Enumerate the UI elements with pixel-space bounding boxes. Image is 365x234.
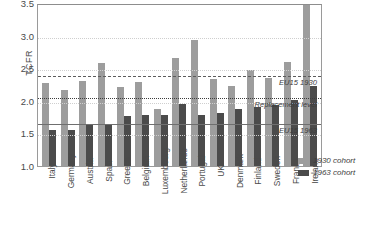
x-tick: Luxembourg: [151, 169, 170, 233]
bar-group: [170, 5, 189, 166]
x-tick-label: Sweden: [273, 156, 281, 186]
bar-group: [133, 5, 152, 166]
y-tick-label: 2.5: [8, 64, 34, 74]
bar-group: [96, 5, 115, 166]
x-tick: France: [283, 169, 302, 233]
reference-line-label: EU15 1963: [279, 127, 317, 135]
y-tick-label: 1.5: [8, 129, 34, 139]
y-tick-label: 3.5: [8, 0, 34, 9]
bar-group: [226, 5, 245, 166]
x-tick: Greece: [114, 169, 133, 233]
x-tick: Austria: [76, 169, 95, 233]
x-tick-label: Netherlands: [180, 148, 188, 193]
x-tick-label: Austria: [86, 158, 94, 184]
bar: [98, 63, 105, 166]
x-tick: Denmark: [226, 169, 245, 233]
bar-group: [77, 5, 96, 166]
x-tick: Sweden: [264, 169, 283, 233]
x-tick: Germany: [58, 169, 77, 233]
y-axis-ticks: 1.01.52.02.53.03.5: [4, 0, 34, 234]
bar: [210, 79, 217, 166]
x-tick-label: Germany: [67, 154, 75, 188]
x-tick: Italy: [39, 169, 58, 233]
x-tick-label: Finland: [254, 157, 262, 184]
legend-item: 1963 cohort: [298, 168, 355, 177]
bar-group: [40, 5, 59, 166]
x-tick: UK: [208, 169, 227, 233]
x-tick-label: Spain: [105, 160, 113, 181]
x-tick-label: UK: [217, 165, 225, 177]
bar: [247, 70, 254, 166]
bar-group: [152, 5, 171, 166]
reference-line-label: EU15 1930: [279, 79, 317, 87]
y-tick-label: 2.0: [8, 97, 34, 107]
y-tick-label: 1.0: [8, 162, 34, 172]
x-tick: Belgium: [133, 169, 152, 233]
reference-line: [38, 76, 321, 77]
legend-label: 1963 cohort: [313, 168, 355, 177]
bar-group: [114, 5, 133, 166]
bar-group: [245, 5, 264, 166]
reference-line: [38, 124, 321, 125]
x-tick-label: Italy: [48, 163, 56, 178]
bar: [217, 113, 224, 166]
plot-area: EU15 1930Replacement levelEU15 1963: [37, 4, 322, 167]
x-axis-labels: ItalyGermanyAustriaSpainGreeceBelgiumLux…: [37, 169, 322, 233]
chart-legend: 1930 cohort1963 cohort: [298, 156, 355, 177]
gridline: [38, 70, 321, 71]
bar: [265, 78, 272, 166]
legend-item: 1930 cohort: [298, 156, 355, 165]
x-tick: Finland: [245, 169, 264, 233]
x-tick-label: Portugal: [198, 155, 206, 186]
legend-swatch: [298, 158, 309, 164]
legend-label: 1930 cohort: [313, 156, 355, 165]
x-tick-label: Denmark: [236, 154, 244, 188]
x-tick-label: Belgium: [142, 156, 150, 186]
plot-inner: EU15 1930Replacement levelEU15 1963: [38, 5, 321, 166]
x-tick: Spain: [95, 169, 114, 233]
reference-line: [38, 98, 321, 99]
bar-group: [189, 5, 208, 166]
x-tick: Ireland: [301, 169, 320, 233]
bar-chart: TCFR 1.01.52.02.53.03.5 EU15 1930Replace…: [0, 0, 365, 234]
x-tick-label: Luxembourg: [161, 148, 169, 195]
legend-swatch: [298, 170, 309, 176]
bar-group: [207, 5, 226, 166]
gridline: [38, 135, 321, 136]
x-tick: Netherlands: [170, 169, 189, 233]
reference-line-label: Replacement level: [255, 101, 317, 109]
gridline: [38, 38, 321, 39]
bar: [117, 87, 124, 166]
bar-group: [59, 5, 78, 166]
x-tick: Portugal: [189, 169, 208, 233]
y-tick-label: 3.0: [8, 32, 34, 42]
x-tick-label: Greece: [123, 157, 131, 184]
